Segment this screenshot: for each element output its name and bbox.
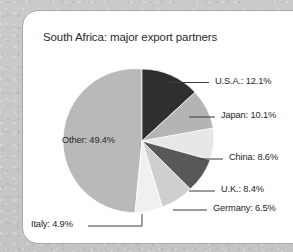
pie-label-germany: Germany: 6.5% — [213, 203, 276, 213]
pie-label-italy: Italy: 4.9% — [31, 219, 73, 229]
leader-line-italy — [88, 214, 142, 226]
pie-label-uk: U.K.: 8.4% — [221, 184, 264, 194]
pie-label-japan: Japan: 10.1% — [221, 110, 276, 120]
pie-label-other: Other: 49.4% — [62, 135, 115, 145]
screenshot-canvas: South Africa: major export partners — [0, 0, 293, 252]
chart-card: South Africa: major export partners — [22, 10, 293, 244]
pie-label-china: China: 8.6% — [229, 152, 278, 162]
pie-label-usa: U.S.A.: 12.1% — [215, 76, 271, 86]
